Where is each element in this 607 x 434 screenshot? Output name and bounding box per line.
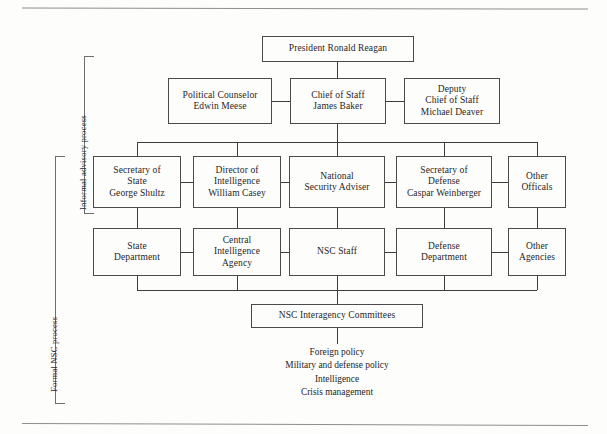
connector-defense-dept-down	[444, 276, 445, 290]
node-national-security-adviser[interactable]: National Security Adviser	[289, 156, 385, 208]
node-nsc-interagency-committees-label: NSC Interagency Committees	[276, 310, 399, 321]
page-rule-top	[22, 7, 588, 9]
connector-nsa-down	[337, 208, 338, 228]
node-central-intelligence-agency[interactable]: Central Intelligence Agency	[193, 228, 281, 276]
bus-row3-drop-defense	[444, 142, 445, 156]
node-other-agencies[interactable]: Other Agencies	[508, 228, 566, 276]
connector-state-dept-down	[137, 276, 138, 290]
node-secretary-of-state-label: Secretary of State George Shultz	[106, 165, 168, 199]
bus-row3-drop-state	[137, 142, 138, 156]
connector-cia-down	[237, 276, 238, 290]
connector-president-down	[337, 62, 338, 78]
node-president[interactable]: President Ronald Reagan	[262, 36, 414, 62]
node-president-label: President Ronald Reagan	[286, 43, 390, 54]
node-national-security-adviser-label: National Security Adviser	[301, 171, 372, 193]
connector-bus-to-committees	[337, 290, 338, 304]
connector-defense-down	[444, 208, 445, 228]
node-secretary-of-defense-label: Secretary of Defense Caspar Weinberger	[404, 165, 484, 199]
connector-intelligence-to-nsa	[281, 182, 289, 183]
node-director-of-intelligence-label: Director of Intelligence William Casey	[205, 165, 269, 199]
connector-state-to-intelligence	[181, 182, 193, 183]
connector-nsa-to-defense	[385, 182, 396, 183]
node-central-intelligence-agency-label: Central Intelligence Agency	[211, 235, 263, 269]
node-secretary-of-defense[interactable]: Secretary of Defense Caspar Weinberger	[396, 156, 492, 208]
node-state-department[interactable]: State Department	[93, 228, 181, 276]
node-defense-department[interactable]: Defense Department	[396, 228, 492, 276]
node-state-department-label: State Department	[111, 241, 163, 263]
node-other-officials-label: Other Officals	[518, 171, 555, 193]
node-nsc-interagency-committees[interactable]: NSC Interagency Committees	[251, 304, 423, 328]
node-deputy-chief-of-staff[interactable]: Deputy Chief of Staff Michael Deaver	[404, 78, 500, 124]
committee-topics-list: Foreign policy Military and defense poli…	[237, 346, 437, 399]
connector-nsc-staff-down	[337, 276, 338, 290]
connector-other-officials-down	[537, 208, 538, 228]
node-secretary-of-state[interactable]: Secretary of State George Shultz	[93, 156, 181, 208]
connector-meese-to-baker	[272, 101, 290, 102]
node-political-counselor-label: Political Counselor Edwin Meese	[180, 90, 261, 112]
page-rule-bottom	[22, 423, 588, 426]
connector-baker-to-deaver	[386, 101, 404, 102]
committee-topic-foreign-policy: Foreign policy	[237, 346, 437, 359]
bus-row3-drop-other-officials	[537, 142, 538, 156]
node-chief-of-staff-label: Chief of Staff James Baker	[308, 90, 367, 112]
connector-state-dept-to-cia	[181, 252, 193, 253]
node-director-of-intelligence[interactable]: Director of Intelligence William Casey	[193, 156, 281, 208]
connector-committees-down	[337, 328, 338, 344]
node-defense-department-label: Defense Department	[418, 241, 470, 263]
diagram-canvas: Informal advisory process Formal NSC pro…	[0, 0, 607, 434]
node-political-counselor[interactable]: Political Counselor Edwin Meese	[168, 78, 272, 124]
connector-cia-to-nsc-staff	[281, 252, 289, 253]
connector-defense-dept-to-other-agencies	[492, 252, 508, 253]
node-other-agencies-label: Other Agencies	[516, 241, 558, 263]
connector-nsc-staff-to-defense-dept	[385, 252, 396, 253]
connector-other-agencies-down	[537, 276, 538, 290]
connector-defense-to-other-officials	[492, 182, 508, 183]
connector-state-down	[137, 208, 138, 228]
node-nsc-staff[interactable]: NSC Staff	[289, 228, 385, 276]
node-chief-of-staff[interactable]: Chief of Staff James Baker	[290, 78, 386, 124]
bracket-label-formal-nsc-process: Formal NSC process	[49, 317, 59, 392]
node-deputy-chief-of-staff-label: Deputy Chief of Staff Michael Deaver	[418, 84, 486, 118]
bus-row3-drop-nsa	[337, 142, 338, 156]
bracket-label-informal-advisory-process: Informal advisory process	[78, 115, 88, 210]
node-other-officials[interactable]: Other Officals	[508, 156, 566, 208]
committee-topic-crisis-management: Crisis management	[237, 386, 437, 399]
connector-intelligence-down	[237, 208, 238, 228]
committee-topic-military-and-defense-policy: Military and defense policy	[237, 359, 437, 372]
committee-topic-intelligence: Intelligence	[237, 373, 437, 386]
node-nsc-staff-label: NSC Staff	[314, 246, 360, 257]
bus-row3-drop-intelligence	[237, 142, 238, 156]
